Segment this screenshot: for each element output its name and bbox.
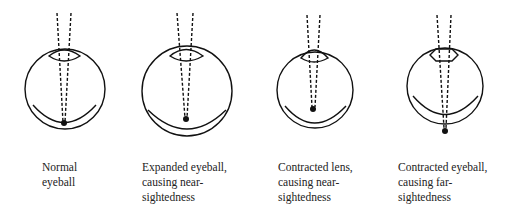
eye-normal bbox=[25, 13, 105, 129]
caption-contracted-lens: Contracted lens, causing near- sightedne… bbox=[278, 160, 353, 205]
caption-normal: Normal eyeball bbox=[42, 160, 77, 190]
caption-contracted-eyeball: Contracted eyeball, causing far- sighted… bbox=[398, 160, 487, 205]
eye-contracted-eyeball bbox=[407, 15, 483, 134]
eye-contracted-lens bbox=[277, 15, 353, 128]
eye-expanded bbox=[142, 13, 232, 136]
caption-expanded: Expanded eyeball, causing near- sightedn… bbox=[142, 160, 227, 205]
